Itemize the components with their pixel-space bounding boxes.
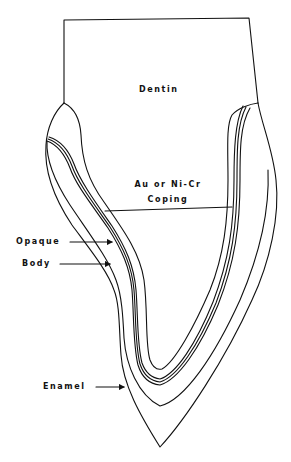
body-label: Body (22, 259, 51, 269)
enamel-outer-outline (46, 103, 277, 447)
enamel-label: Enamel (43, 382, 86, 392)
opaque-outline (47, 108, 250, 385)
opaque-label: Opaque (16, 237, 60, 247)
dentin-prep-outline (64, 103, 258, 369)
crown-cross-section-diagram (0, 0, 291, 462)
coping-label: Au or Ni-Cr Coping (128, 180, 208, 205)
coping-pointer-line (105, 207, 232, 211)
coping-label-line2: Coping (128, 195, 208, 205)
coping-label-line1: Au or Ni-Cr (128, 180, 208, 190)
dentin-label: Dentin (139, 85, 179, 95)
